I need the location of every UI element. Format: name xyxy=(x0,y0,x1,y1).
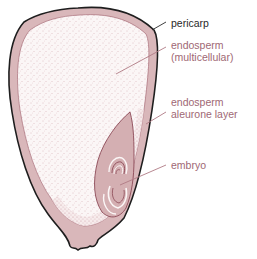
label-endosperm-multicellular: endosperm (multicellular) xyxy=(171,39,233,63)
label-pericarp: pericarp xyxy=(171,17,209,29)
label-text: pericarp xyxy=(171,17,209,29)
label-text-line1: endosperm xyxy=(171,39,233,51)
label-endosperm-aleurone-layer: endosperm aleurone layer xyxy=(171,96,238,120)
label-text-line2: (multicellular) xyxy=(171,51,233,63)
label-text: embryo xyxy=(171,159,206,171)
label-text-line2: aleurone layer xyxy=(171,108,238,120)
pericarp-leader xyxy=(152,22,166,30)
label-embryo: embryo xyxy=(171,159,206,171)
label-text-line1: endosperm xyxy=(171,96,238,108)
